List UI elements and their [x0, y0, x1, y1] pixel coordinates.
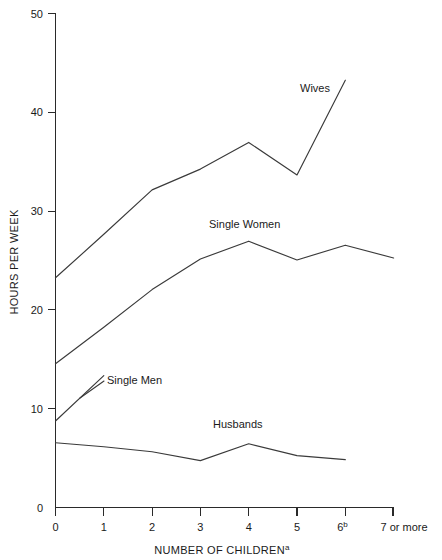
x-tick-label-6: 6b	[337, 520, 348, 534]
series-line-wives	[56, 80, 346, 278]
x-axis-ticks	[56, 507, 394, 516]
chart-container: 50 40 30 20 10 0 0 1 2 3 4 5 6b 7	[0, 0, 442, 560]
y-tick-label-0: 0	[37, 502, 43, 514]
x-tick-label-4: 4	[246, 521, 252, 533]
y-axis-tick-labels: 50 40 30 20 10 0	[31, 8, 43, 514]
y-tick-label-30: 30	[31, 205, 43, 217]
series-label-single-men: Single Men	[107, 374, 162, 386]
x-axis-tick-labels: 0 1 2 3 4 5 6b 7 or more	[52, 520, 427, 534]
series-line-husbands	[56, 443, 346, 461]
y-tick-label-10: 10	[31, 403, 43, 415]
x-tick-label-7-or-more: 7 or more	[380, 521, 427, 533]
x-tick-label-5: 5	[294, 521, 300, 533]
x-axis-title: NUMBER OF CHILDRENa	[154, 543, 290, 557]
y-axis-title: HOURS PER WEEK	[8, 209, 20, 314]
line-chart: 50 40 30 20 10 0 0 1 2 3 4 5 6b 7	[0, 0, 442, 560]
x-tick-label-6-superscript: b	[343, 520, 348, 529]
series-label-wives: Wives	[300, 82, 330, 94]
series-line-single-women	[56, 241, 394, 364]
x-tick-label-1: 1	[101, 521, 107, 533]
y-tick-label-20: 20	[31, 304, 43, 316]
x-axis-title-superscript: a	[285, 543, 290, 552]
y-axis-ticks	[48, 14, 55, 409]
series-label-husbands: Husbands	[213, 418, 263, 430]
y-tick-label-40: 40	[31, 106, 43, 118]
series-label-single-women: Single Women	[209, 218, 280, 230]
x-tick-label-3: 3	[197, 521, 203, 533]
single-men-leader-line	[80, 381, 104, 398]
x-axis-title-text: NUMBER OF CHILDREN	[154, 544, 285, 556]
x-tick-label-2: 2	[149, 521, 155, 533]
y-tick-label-50: 50	[31, 8, 43, 20]
x-tick-label-0: 0	[52, 521, 58, 533]
